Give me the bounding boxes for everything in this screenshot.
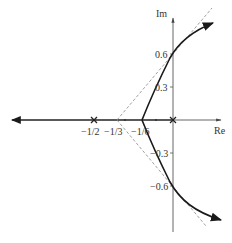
label-neg-half: −1/2 [81, 126, 99, 137]
label-neg-third: −1/3 [104, 126, 122, 137]
locus-branch-upper [142, 23, 213, 120]
asymptotes [117, 8, 212, 226]
imag-axis-label: Im [156, 8, 167, 19]
real-axis-label: Re [214, 125, 226, 136]
asymptote-upper [117, 8, 212, 120]
label-0.3: 0.3 [155, 82, 168, 93]
root-locus-diagram: Im Re −1/2 −1/3 −1/6 0.6 0.3 −0.3 −0.6 [0, 0, 232, 243]
axis-dot [155, 119, 157, 121]
imaginary-axis [170, 18, 173, 232]
label-0.6: 0.6 [155, 49, 168, 60]
label-neg-0.3: −0.3 [150, 148, 168, 159]
label-neg-sixth: −1/6 [131, 126, 149, 137]
label-neg-0.6: −0.6 [150, 181, 168, 192]
axis-dot [124, 119, 126, 121]
locus-branch-lower [142, 120, 221, 220]
